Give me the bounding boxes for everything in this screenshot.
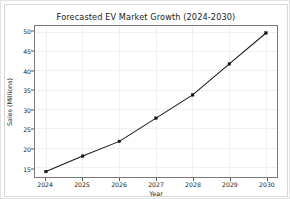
y-tick-label: 35	[23, 87, 31, 94]
data-point	[191, 94, 194, 97]
data-point	[45, 170, 48, 173]
x-tick-label: 2030	[259, 181, 275, 188]
data-point	[118, 140, 121, 143]
data-point	[155, 117, 158, 120]
y-tick-label: 20	[23, 145, 31, 152]
y-tick-label: 50	[23, 28, 31, 35]
x-axis-label: Year	[34, 190, 278, 198]
x-tick-label: 2027	[148, 181, 164, 188]
chart-figure: Forecasted EV Market Growth (2024-2030) …	[0, 0, 290, 199]
data-series-line	[35, 26, 277, 177]
y-tick-label: 40	[23, 67, 31, 74]
x-tick-label: 2029	[222, 181, 238, 188]
y-tick-label: 25	[23, 126, 31, 133]
y-tick-label: 15	[23, 165, 31, 172]
x-tick-label: 2026	[111, 181, 127, 188]
x-tick-label: 2024	[37, 181, 53, 188]
x-tick-label: 2028	[185, 181, 201, 188]
data-point	[81, 155, 84, 158]
y-tick-label: 45	[23, 47, 31, 54]
y-tick-label: 30	[23, 106, 31, 113]
data-point	[228, 63, 231, 66]
figure-canvas: Forecasted EV Market Growth (2024-2030) …	[4, 4, 288, 197]
data-point	[265, 32, 268, 35]
x-tick-label: 2025	[74, 181, 90, 188]
y-axis-tick-labels: 1520253035404550	[13, 25, 31, 178]
plot-area	[34, 25, 278, 178]
page-title: Forecasted EV Market Growth (2024-2030)	[5, 12, 287, 22]
